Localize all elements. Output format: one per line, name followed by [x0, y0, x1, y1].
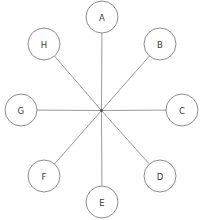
node-f[interactable]: F: [28, 160, 60, 192]
edge-hub-to-f: [55, 111, 102, 164]
node-b-label: B: [157, 40, 163, 50]
diagram-canvas: ABCDEFGH: [0, 0, 202, 220]
edge-hub-to-b: [102, 56, 150, 110]
node-g[interactable]: G: [5, 94, 37, 126]
node-e-label: E: [99, 198, 105, 208]
star-topology-diagram: ABCDEFGH: [0, 0, 202, 220]
node-f-label: F: [41, 172, 46, 182]
node-d[interactable]: D: [144, 160, 176, 192]
node-b[interactable]: B: [144, 28, 176, 60]
hub-center-dot[interactable]: [100, 109, 103, 112]
edge-hub-to-h: [54, 56, 101, 110]
node-g-label: G: [18, 106, 25, 116]
hub-node[interactable]: [100, 109, 103, 112]
node-h-label: H: [41, 40, 48, 50]
node-c[interactable]: C: [166, 94, 198, 126]
node-e[interactable]: E: [86, 186, 118, 218]
node-c-label: C: [179, 106, 185, 116]
edge-hub-to-d: [102, 111, 150, 165]
node-a[interactable]: A: [86, 1, 118, 33]
node-d-label: D: [157, 172, 164, 182]
node-a-label: A: [99, 13, 105, 23]
node-h[interactable]: H: [28, 28, 60, 60]
